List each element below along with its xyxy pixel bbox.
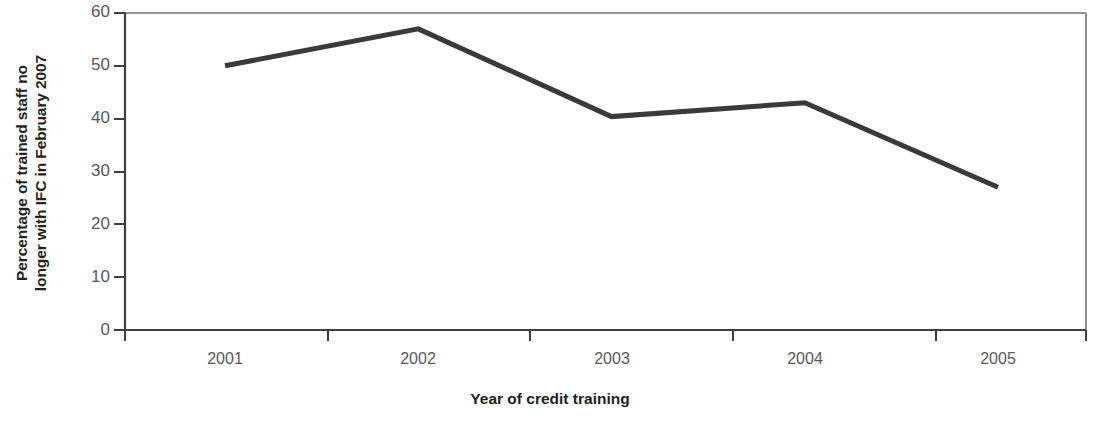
x-tick-label-2004: 2004 <box>760 350 850 368</box>
x-tick-label-2003: 2003 <box>567 350 657 368</box>
x-tick-label-2001: 2001 <box>180 350 270 368</box>
line-chart: Percentage of trained staff no longer wi… <box>0 0 1100 428</box>
data-series-line <box>225 29 998 187</box>
x-tick-label-2002: 2002 <box>373 350 463 368</box>
plot-area <box>0 0 1100 428</box>
x-axis-ticks <box>125 330 1086 341</box>
plot-frame <box>125 13 1086 330</box>
y-axis-ticks <box>114 13 125 330</box>
x-axis-title: Year of credit training <box>0 390 1100 408</box>
x-tick-label-2005: 2005 <box>953 350 1043 368</box>
